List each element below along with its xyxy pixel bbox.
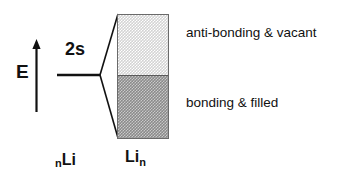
annotation-bonding: bonding & filled [186, 96, 278, 110]
category-label-n-prefix: n [55, 157, 62, 169]
energy-axis-arrow [32, 39, 40, 112]
band-block [117, 14, 169, 139]
solid-label-subscript: n [139, 156, 146, 168]
energy-level-diagram: E 2s anti-bonding & vacant bonding & fil… [0, 0, 346, 183]
connector-line-lower [100, 75, 118, 138]
category-label-n-li: nLi [55, 152, 76, 168]
band-antibonding [118, 15, 168, 76]
solid-label-element: Li [125, 148, 139, 165]
band-bonding [118, 76, 168, 138]
energy-axis-label: E [16, 62, 29, 81]
annotation-antibonding: anti-bonding & vacant [186, 26, 317, 40]
category-label-li-n: Lin [125, 149, 146, 168]
connector-line-upper [100, 14, 118, 75]
orbital-label-2s: 2s [65, 40, 85, 58]
category-label-element: Li [62, 151, 76, 168]
